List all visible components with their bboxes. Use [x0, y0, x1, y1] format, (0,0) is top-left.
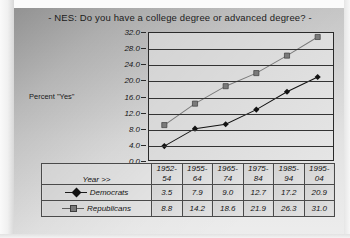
marker-glyph — [71, 188, 81, 198]
chart-title: - NES: Do you have a college degree or a… — [30, 10, 330, 26]
y-tick-mark — [141, 113, 146, 114]
y-tick-label: 12.0 — [124, 108, 140, 117]
table-header-row: Year >>1952-541955-641965-741975-841985-… — [42, 164, 335, 185]
y-tick-mark — [141, 97, 146, 98]
table-cell: 26.3 — [274, 201, 305, 217]
y-tick-mark — [141, 145, 146, 146]
year-column-header: 1975-84 — [243, 164, 274, 185]
table-cell: 3.5 — [152, 185, 183, 201]
year-column-header: 1965-74 — [213, 164, 244, 185]
series-line-democrats — [164, 77, 317, 146]
data-point-marker — [254, 71, 259, 76]
diamond-marker-icon — [65, 188, 87, 197]
table-cell: 7.9 — [182, 185, 213, 201]
data-point-marker — [284, 89, 290, 95]
table-row: Republicans8.814.218.621.926.331.0 — [42, 201, 335, 217]
y-tick-label: 8.0 — [129, 124, 140, 133]
square-marker-icon — [62, 204, 84, 213]
y-tick-label: 20.0 — [124, 76, 140, 85]
table-cell: 20.9 — [304, 185, 335, 201]
page-edge-left — [0, 0, 14, 238]
year-column-header: 1995-04 — [304, 164, 335, 185]
table-cell: 12.7 — [243, 185, 274, 201]
data-point-marker — [315, 34, 320, 39]
y-tick-label: 24.0 — [124, 60, 140, 69]
y-tick-label: 16.0 — [124, 92, 140, 101]
legend-item-republicans[interactable]: Republicans — [42, 201, 152, 217]
data-point-marker — [223, 121, 229, 127]
legend-label: Republicans — [87, 204, 131, 213]
data-point-marker — [284, 53, 289, 58]
data-point-marker — [253, 107, 259, 113]
legend-label: Democrats — [90, 188, 129, 197]
table-cell: 21.9 — [243, 201, 274, 217]
y-tick-mark — [141, 32, 146, 33]
y-tick-mark — [141, 80, 146, 81]
legend-item-democrats[interactable]: Democrats — [42, 185, 152, 201]
gridline — [149, 81, 333, 82]
table-cell: 8.8 — [152, 201, 183, 217]
data-point-marker — [315, 74, 321, 80]
y-tick-label: 32.0 — [124, 28, 140, 37]
y-tick-label: 28.0 — [124, 44, 140, 53]
y-tick-mark — [141, 64, 146, 65]
table-row: Democrats3.57.99.012.717.220.9 — [42, 185, 335, 201]
marker-glyph — [70, 205, 77, 212]
year-column-header: 1985-94 — [274, 164, 305, 185]
y-tick-label: 4.0 — [129, 140, 140, 149]
plot-area — [148, 32, 334, 161]
y-tick-mark — [141, 48, 146, 49]
y-tick-mark — [141, 161, 146, 162]
page-edge-bottom — [0, 234, 350, 238]
gridline — [149, 130, 333, 131]
data-point-marker — [192, 101, 197, 106]
y-tick-mark — [141, 129, 146, 130]
gridline — [149, 49, 333, 50]
year-column-header: 1952-54 — [152, 164, 183, 185]
gridline — [149, 98, 333, 99]
data-point-marker — [223, 84, 228, 89]
gridline — [149, 114, 333, 115]
data-point-marker — [192, 126, 198, 132]
gridline — [149, 146, 333, 147]
y-axis-tick-labels: 32.028.024.020.016.012.08.04.00.0 — [100, 26, 146, 167]
table-cell: 9.0 — [213, 185, 244, 201]
chart-page: - NES: Do you have a college degree or a… — [0, 0, 350, 238]
data-point-marker — [162, 123, 167, 128]
data-table: Year >>1952-541955-641965-741975-841985-… — [41, 163, 335, 217]
page-edge-top — [0, 0, 350, 8]
gridline — [149, 65, 333, 66]
page-edge-right — [344, 0, 350, 238]
table-cell: 14.2 — [182, 201, 213, 217]
table-cell: 31.0 — [304, 201, 335, 217]
year-header-label: Year >> — [42, 164, 152, 185]
year-column-header: 1955-64 — [182, 164, 213, 185]
table-cell: 17.2 — [274, 185, 305, 201]
y-axis-label: Percent "Yes" — [29, 92, 75, 101]
table-cell: 18.6 — [213, 201, 244, 217]
plot-series-svg — [149, 33, 333, 160]
